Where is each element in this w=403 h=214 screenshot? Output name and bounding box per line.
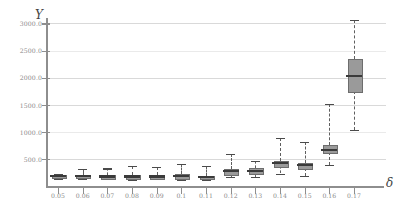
upper-whisker-cap: [300, 142, 309, 143]
upper-whisker-cap: [202, 166, 211, 167]
upper-whisker-cap: [177, 164, 186, 165]
y-axis-tick: [42, 78, 50, 79]
lower-whisker-cap: [350, 130, 359, 131]
upper-whisker-cap: [78, 169, 87, 170]
upper-whisker-cap: [251, 161, 260, 162]
gridline: [46, 105, 386, 106]
y-axis-tick: [42, 132, 50, 133]
y-axis-tick: [42, 51, 50, 52]
upper-whisker: [354, 20, 355, 59]
upper-whisker: [181, 164, 182, 174]
lower-whisker-cap: [251, 177, 260, 178]
upper-whisker: [329, 104, 330, 145]
gridline: [46, 132, 386, 133]
upper-whisker: [231, 154, 232, 169]
boxplot-chart: Y δ 500.01000.01500.02000.02500.03000.00…: [0, 0, 403, 214]
gridline: [46, 78, 386, 79]
upper-whisker-cap: [152, 167, 161, 168]
lower-whisker-cap: [276, 174, 285, 175]
lower-whisker-cap: [202, 180, 211, 181]
upper-whisker-cap: [276, 138, 285, 139]
median-line: [346, 75, 362, 77]
median-line: [99, 175, 115, 177]
median-line: [321, 149, 337, 151]
gridline: [46, 23, 386, 24]
upper-whisker-cap: [350, 20, 359, 21]
lower-whisker-cap: [325, 165, 334, 166]
y-axis-tick-label: 2500.0: [0, 47, 42, 54]
lower-whisker-cap: [128, 180, 137, 181]
median-line: [124, 175, 140, 177]
median-line: [149, 175, 165, 177]
median-line: [50, 175, 66, 177]
median-line: [223, 170, 239, 172]
median-line: [297, 164, 313, 166]
y-axis-tick: [42, 159, 50, 160]
median-line: [75, 175, 91, 177]
plot-area: [46, 18, 386, 186]
y-axis-tick-label: 1500.0: [0, 102, 42, 109]
x-axis-title: δ: [386, 176, 393, 190]
upper-whisker: [206, 166, 207, 176]
median-line: [247, 170, 263, 172]
median-line: [198, 176, 214, 178]
upper-whisker: [305, 142, 306, 163]
upper-whisker-cap: [128, 166, 137, 167]
y-axis-tick-label: 2000.0: [0, 74, 42, 81]
lower-whisker-cap: [300, 176, 309, 177]
y-axis-tick-label: 1000.0: [0, 129, 42, 136]
median-line: [173, 175, 189, 177]
gridline: [46, 51, 386, 52]
y-axis-tick-label: 500.0: [0, 156, 42, 163]
upper-whisker: [132, 166, 133, 175]
lower-whisker-cap: [177, 180, 186, 181]
upper-whisker: [280, 138, 281, 161]
y-axis-tick: [42, 23, 50, 24]
lower-whisker: [354, 91, 355, 131]
upper-whisker-cap: [226, 154, 235, 155]
x-axis-tick-label: 0.17: [339, 192, 369, 199]
x-axis-line: [46, 186, 384, 188]
lower-whisker-cap: [226, 177, 235, 178]
upper-whisker-cap: [325, 104, 334, 105]
y-axis-tick: [42, 105, 50, 106]
median-line: [272, 162, 288, 164]
upper-whisker-cap: [103, 168, 112, 169]
gridline: [46, 159, 386, 160]
y-axis-tick-label: 3000.0: [0, 20, 42, 27]
